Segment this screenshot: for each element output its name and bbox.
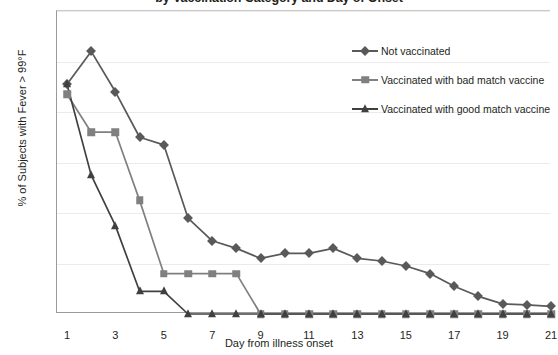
data-point-marker xyxy=(257,309,265,317)
y-axis-title: % of Subjects with Fever > 99°F xyxy=(16,0,28,268)
data-point-marker xyxy=(112,128,120,136)
data-point-marker xyxy=(450,309,458,317)
data-point-marker xyxy=(87,128,95,136)
x-tick-label: 1 xyxy=(47,329,87,341)
data-point-marker xyxy=(160,270,168,278)
data-point-marker xyxy=(208,270,216,278)
data-point-marker xyxy=(474,309,482,317)
data-point-marker xyxy=(499,309,507,317)
x-tick-label: 11 xyxy=(289,329,329,341)
legend-swatch-triangle-icon xyxy=(352,103,378,115)
x-tick-label: 13 xyxy=(337,329,377,341)
x-tick-label: 21 xyxy=(531,329,558,341)
chart-container: by Vaccination Category and Day of Onset… xyxy=(0,0,558,355)
data-point-marker xyxy=(353,309,361,317)
x-tick-label: 15 xyxy=(386,329,426,341)
data-point-marker xyxy=(136,197,144,205)
chart-title: by Vaccination Category and Day of Onset xyxy=(0,0,558,5)
legend-swatch-diamond-icon xyxy=(352,45,378,57)
data-point-marker xyxy=(136,287,144,295)
data-point-marker xyxy=(329,309,337,317)
data-point-marker xyxy=(184,270,192,278)
data-point-marker xyxy=(111,221,119,229)
data-point-marker xyxy=(523,309,531,317)
data-point-marker xyxy=(402,309,410,317)
data-point-marker xyxy=(160,287,168,295)
data-point-marker xyxy=(547,309,555,317)
x-tick-label: 7 xyxy=(192,329,232,341)
data-point-marker xyxy=(281,309,289,317)
data-point-marker xyxy=(233,270,241,278)
data-point-marker xyxy=(63,80,71,88)
data-point-marker xyxy=(426,309,434,317)
x-tick-label: 3 xyxy=(95,329,135,341)
x-tick-label: 19 xyxy=(483,329,523,341)
data-point-marker xyxy=(378,309,386,317)
legend-item-2[interactable]: Vaccinated with good match vaccine xyxy=(352,102,550,115)
legend-item-1[interactable]: Vaccinated with bad match vaccine xyxy=(352,73,550,86)
x-tick-label: 5 xyxy=(144,329,184,341)
legend-label: Vaccinated with good match vaccine xyxy=(381,103,550,115)
data-point-marker xyxy=(232,309,240,317)
data-point-marker xyxy=(208,309,216,317)
legend-swatch-square-icon xyxy=(352,74,378,86)
chart-legend: Not vaccinatedVaccinated with bad match … xyxy=(352,44,550,131)
legend-label: Vaccinated with bad match vaccine xyxy=(381,74,544,86)
legend-item-0[interactable]: Not vaccinated xyxy=(352,44,550,57)
x-tick-label: 9 xyxy=(241,329,281,341)
legend-label: Not vaccinated xyxy=(381,45,450,57)
x-tick-label: 17 xyxy=(434,329,474,341)
data-point-marker xyxy=(63,91,71,99)
data-point-marker xyxy=(87,170,95,178)
data-point-marker xyxy=(305,309,313,317)
data-point-marker xyxy=(184,309,192,317)
